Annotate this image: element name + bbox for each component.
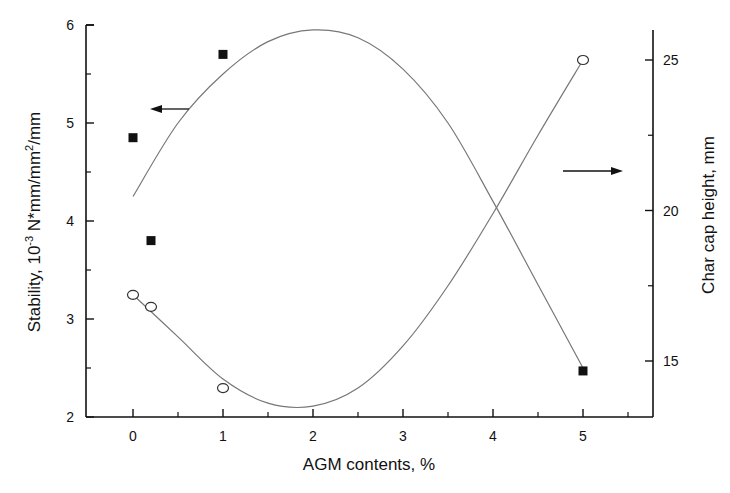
y-tick-label: 5 bbox=[66, 115, 74, 131]
y2-axis-title: Char cap height, mm bbox=[699, 136, 718, 294]
x-tick-label: 3 bbox=[399, 428, 407, 444]
y-axis-title: Stability, 10-3 N*mm/mm2/mm bbox=[23, 112, 44, 333]
char-cap-height-point bbox=[218, 384, 229, 393]
y-tick-label: 4 bbox=[66, 213, 74, 229]
axes-frame: 01234523456152025 bbox=[66, 17, 679, 444]
char-cap-height-point bbox=[146, 302, 157, 311]
axis-labels: AGM contents, % Char cap height, mm Stab… bbox=[23, 112, 718, 474]
x-tick-label: 1 bbox=[219, 428, 227, 444]
char-cap-height-point bbox=[578, 56, 589, 65]
x-axis-title: AGM contents, % bbox=[303, 455, 435, 474]
stability-point bbox=[129, 133, 138, 142]
char-cap-height-fit-curve bbox=[133, 60, 583, 407]
char-cap-height-point bbox=[128, 290, 139, 299]
y-tick-label: 3 bbox=[66, 311, 74, 327]
y-tick-label: 6 bbox=[66, 17, 74, 33]
stability-point bbox=[219, 50, 228, 59]
stability-point bbox=[579, 366, 588, 375]
right-arrow-icon bbox=[611, 167, 623, 175]
stability-point bbox=[147, 236, 156, 245]
x-tick-label: 5 bbox=[579, 428, 587, 444]
axis-arrows bbox=[150, 105, 623, 175]
chart: 01234523456152025 AGM contents, % Char c… bbox=[0, 0, 730, 493]
stability-fit-curve bbox=[133, 30, 583, 368]
y2-tick-label: 15 bbox=[663, 353, 679, 369]
x-tick-label: 0 bbox=[129, 428, 137, 444]
left-arrow-icon bbox=[150, 105, 162, 113]
x-tick-label: 2 bbox=[309, 428, 317, 444]
y-tick-label: 2 bbox=[66, 409, 74, 425]
y2-tick-label: 20 bbox=[663, 203, 679, 219]
fit-curves bbox=[133, 30, 583, 408]
y2-tick-label: 25 bbox=[663, 52, 679, 68]
x-tick-label: 4 bbox=[489, 428, 497, 444]
data-markers bbox=[128, 50, 589, 393]
